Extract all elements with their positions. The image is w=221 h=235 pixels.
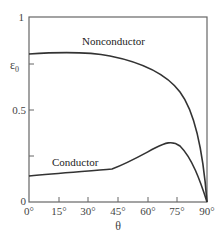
conductor-curve — [29, 143, 207, 202]
y-label-half: 0.5 — [12, 104, 26, 116]
x-label-75: 75° — [169, 205, 184, 217]
x-label-60: 60° — [140, 205, 155, 217]
x-label-15: 15° — [51, 205, 66, 217]
conductor-label: Conductor — [52, 156, 99, 168]
x-axis-label: θ — [115, 219, 121, 233]
nonconductor-curve — [29, 53, 207, 202]
x-ticks — [59, 197, 177, 202]
x-label-0: 0° — [24, 205, 34, 217]
x-label-90: 90° — [199, 205, 214, 217]
x-label-30: 30° — [80, 205, 95, 217]
x-label-45: 45° — [110, 205, 125, 217]
nonconductor-label: Nonconductor — [82, 35, 145, 47]
chart: 1 ε 0 0.5 0 0° 15° 30° 45° 60° 75° 90° θ… — [0, 0, 221, 235]
y-label-eps-sub: 0 — [15, 65, 19, 74]
y-label-1: 1 — [19, 11, 25, 23]
